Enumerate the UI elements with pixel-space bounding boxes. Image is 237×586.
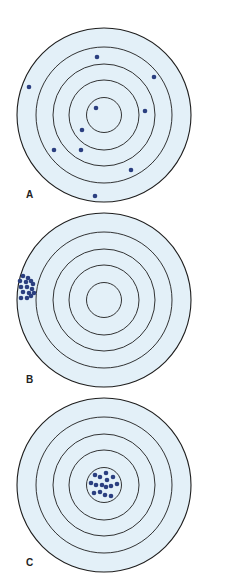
shot-dot — [98, 475, 103, 480]
shot-dot — [29, 294, 34, 299]
target-label: A — [26, 189, 33, 200]
shot-dot — [152, 75, 157, 80]
ring-1 — [17, 28, 191, 202]
shot-dot — [109, 484, 114, 489]
target-b: B — [17, 213, 191, 387]
shot-dot — [111, 475, 116, 480]
shot-dot — [52, 148, 57, 153]
shot-dot — [94, 483, 99, 488]
shot-dot — [129, 168, 134, 173]
shot-dot — [95, 55, 100, 60]
shot-dot — [21, 274, 26, 279]
shot-dot — [103, 493, 108, 498]
target-label: C — [26, 557, 33, 568]
target-c: C — [17, 398, 191, 572]
shot-dot — [31, 282, 36, 287]
shot-dot — [89, 481, 94, 486]
target-label: B — [26, 374, 33, 385]
shot-dot — [19, 285, 24, 290]
shot-dot — [24, 280, 29, 285]
shot-dot — [79, 148, 84, 153]
shot-dot — [18, 279, 23, 284]
shot-dot — [94, 106, 99, 111]
shot-dot — [92, 491, 97, 496]
targets-diagram: A B C — [0, 0, 237, 586]
shot-dot — [104, 485, 109, 490]
shot-dot — [27, 85, 32, 90]
shot-dot — [98, 490, 103, 495]
shot-dot — [115, 482, 120, 487]
shot-dot — [105, 478, 110, 483]
shot-dot — [93, 194, 98, 199]
shot-dot — [80, 128, 85, 133]
shot-dot — [93, 473, 98, 478]
shot-dot — [19, 296, 24, 301]
target-a: A — [17, 28, 191, 202]
shot-dot — [25, 296, 30, 301]
shot-dot — [109, 494, 114, 499]
ring-1 — [17, 213, 191, 387]
shot-dot — [21, 290, 26, 295]
shot-dot — [25, 285, 30, 290]
shot-dot — [104, 471, 109, 476]
shot-dot — [30, 287, 35, 292]
shot-dot — [100, 483, 105, 488]
shot-dot — [143, 109, 148, 114]
